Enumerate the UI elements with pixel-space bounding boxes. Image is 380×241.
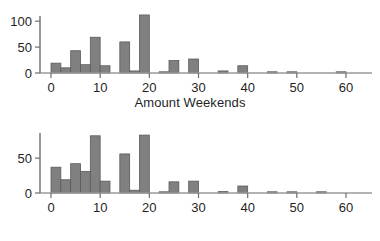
histogram-bar [51,63,61,73]
histogram-bar [90,37,100,73]
histogram-figure: 0102030405060050100 Amount Weekends 0102… [0,0,380,241]
x-axis-tick-label: 20 [142,200,156,215]
x-axis-tick-label: 0 [47,200,54,215]
histogram-bar [90,136,100,193]
histogram-bar [140,15,150,73]
x-axis-tick-label: 30 [191,80,205,95]
histogram-bar [169,182,179,193]
x-axis-tick-label: 50 [290,80,304,95]
y-axis-tick-label: 50 [18,151,32,166]
x-axis-tick-label: 50 [290,200,304,215]
chart-panel-weekdays: 0102030405060050 Amount Weekdays [0,120,380,241]
histogram-bar [169,61,179,73]
histogram-bar [71,164,81,193]
histogram-bar [140,135,150,193]
histogram-bar [120,42,130,73]
histogram-bar [81,171,91,193]
histogram-bar [100,66,110,73]
histogram-bar [61,180,71,193]
chart-panel-weekends: 0102030405060050100 Amount Weekends [0,0,380,120]
x-axis-tick-label: 10 [93,80,107,95]
plot-area-weekdays: 0102030405060050 [0,120,380,241]
histogram-bar [189,59,199,73]
x-axis-tick-label: 40 [240,200,254,215]
x-axis-tick-label: 60 [339,80,353,95]
x-axis-label-weekends: Amount Weekends [0,95,380,110]
y-axis-tick-label: 50 [18,40,32,55]
y-axis-tick-label: 0 [25,186,32,201]
y-axis-tick-label: 0 [25,66,32,81]
histogram-bar [238,66,248,73]
histogram-bar [71,51,81,73]
histogram-bar [100,181,110,193]
histogram-bar [189,181,199,193]
x-axis-tick-label: 30 [191,200,205,215]
y-axis-tick-label: 100 [10,14,32,29]
x-axis-tick-label: 10 [93,200,107,215]
histogram-bar [120,154,130,193]
x-axis-tick-label: 0 [47,80,54,95]
histogram-bar [238,186,248,193]
histogram-bar [51,167,61,193]
x-axis-tick-label: 40 [240,80,254,95]
histogram-bar [61,68,71,73]
histogram-svg-weekdays: 0102030405060050 [0,120,380,241]
histogram-bar [81,65,91,73]
x-axis-tick-label: 60 [339,200,353,215]
x-axis-tick-label: 20 [142,80,156,95]
